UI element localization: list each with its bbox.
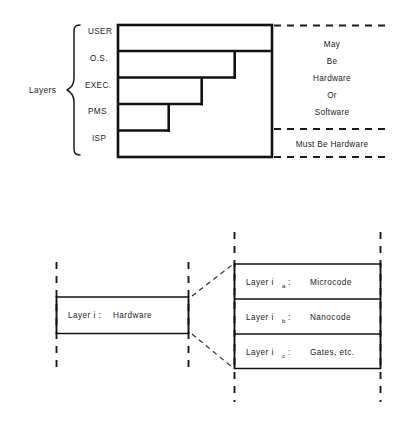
layer-label-pms: PMS [88, 107, 107, 116]
figure-root: Layers USER O.S. EXEC. PMS ISP [0, 0, 399, 421]
bottom-diagram-group: Layer i : Hardware Layer i a : Microcode… [56, 232, 381, 402]
layers-group-label: Layers [29, 85, 56, 95]
layer-label-os: O.S. [90, 54, 108, 63]
right-box-colon-b: : [288, 313, 291, 322]
top-diagram-group: Layers USER O.S. EXEC. PMS ISP [29, 25, 391, 157]
connector-line-upper [192, 265, 232, 296]
annotation-or: Or [327, 91, 337, 100]
right-box-value-b: Nanocode [310, 313, 351, 322]
right-box-subscript-b: b [282, 317, 286, 324]
right-box-value-a: Microcode [310, 278, 352, 287]
layers-brace [67, 25, 80, 155]
connector-line-lower [192, 334, 232, 367]
right-box-label-b: Layer i [246, 313, 274, 322]
left-box-value: Hardware [113, 311, 152, 320]
right-box-label-a: Layer i [246, 278, 274, 287]
layers-outer-box [118, 25, 272, 157]
annotation-software: Software [315, 108, 350, 117]
layer-label-exec: EXEC. [85, 81, 111, 90]
annotation-must-be-hardware: Must Be Hardware [296, 140, 369, 149]
layer-label-user: USER [88, 27, 112, 36]
annotation-may: May [324, 40, 341, 49]
right-box-colon-c: : [288, 348, 291, 357]
right-box-value-c: Gates, etc. [310, 348, 355, 357]
right-box-colon-a: : [288, 278, 291, 287]
right-box-subscript-a: a [282, 282, 286, 289]
annotation-be: Be [327, 57, 338, 66]
right-box-label-c: Layer i [246, 348, 274, 357]
right-box-subscript-c: c [282, 352, 285, 359]
annotation-hardware: Hardware [313, 74, 351, 83]
layer-label-isp: ISP [92, 134, 106, 143]
layer-hierarchy-diagram: Layers USER O.S. EXEC. PMS ISP [0, 0, 399, 421]
left-box-label: Layer i : [68, 311, 101, 320]
